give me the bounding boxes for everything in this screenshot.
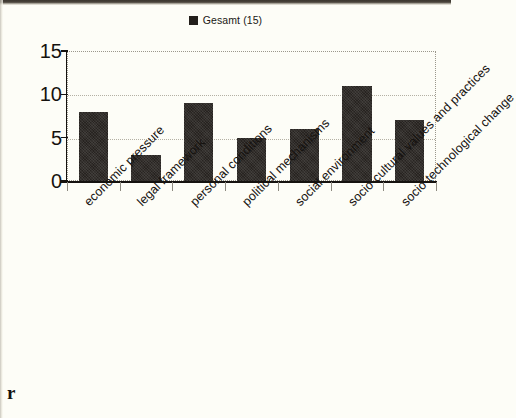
- scan-corner-letter: r: [7, 383, 15, 402]
- x-axis-tick-mark: [120, 182, 121, 191]
- y-axis-tick-mark: [61, 137, 68, 138]
- bar-series-gesamt: [67, 51, 436, 181]
- x-axis-line: [60, 181, 437, 183]
- legend-item-label: Gesamt (15): [203, 14, 262, 26]
- chart-legend: Gesamt (15): [0, 14, 451, 26]
- x-axis-tick-mark: [172, 182, 173, 191]
- bar: [184, 103, 213, 181]
- x-axis-tick-mark: [278, 182, 279, 191]
- y-axis: 051015: [0, 0, 62, 418]
- bar: [237, 138, 266, 181]
- scan-top-edge-artifact: [0, 0, 451, 5]
- y-axis-tick-label: 5: [4, 128, 62, 148]
- filled-square-icon: [189, 16, 198, 25]
- y-axis-tick-mark: [61, 94, 68, 95]
- x-axis-tick-mark: [67, 182, 68, 191]
- y-axis-tick-label: 10: [4, 84, 62, 104]
- bar: [79, 112, 108, 181]
- y-axis-tick-mark: [61, 50, 68, 51]
- y-axis-tick-label: 15: [4, 41, 62, 61]
- bar: [342, 86, 371, 181]
- y-axis-tick-label: 0: [4, 171, 62, 191]
- bar: [395, 120, 424, 181]
- x-axis-tick-mark: [436, 182, 437, 191]
- bar: [290, 129, 319, 181]
- x-axis-tick-mark: [225, 182, 226, 191]
- bar: [131, 155, 160, 181]
- x-axis-tick-mark: [331, 182, 332, 191]
- x-axis-tick-mark: [383, 182, 384, 191]
